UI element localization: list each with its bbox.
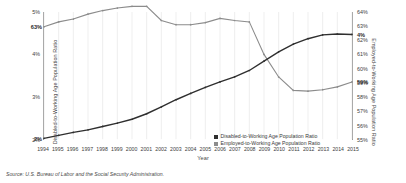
data-point	[219, 81, 221, 83]
series-line-employed-ratio	[44, 6, 352, 91]
data-point	[234, 76, 236, 78]
legend-swatch-icon	[214, 142, 218, 146]
y-tick-right: 64%	[357, 9, 368, 15]
data-point	[102, 126, 104, 128]
data-point	[58, 21, 60, 23]
x-tick: 2005	[200, 146, 212, 152]
data-point	[131, 118, 133, 120]
x-tick: 2001	[141, 146, 153, 152]
data-point	[248, 70, 250, 72]
x-tick: 2003	[170, 146, 182, 152]
legend-label: Disabled-to-Working Age Population Ratio	[221, 133, 318, 140]
data-point	[116, 122, 118, 124]
point-label-start-disabled: 2%	[34, 136, 42, 142]
data-point	[160, 20, 162, 22]
x-tick: 2000	[126, 146, 138, 152]
legend-swatch-icon	[214, 135, 218, 139]
series-line-disabled-ratio	[44, 34, 352, 138]
data-point	[307, 90, 309, 92]
x-axis-title: Year	[0, 155, 406, 161]
point-label-start-employed: 63%	[31, 24, 42, 30]
x-tick: 1997	[82, 146, 94, 152]
plot-area: 63% 2% 4% 59%	[43, 12, 353, 140]
data-point	[160, 106, 162, 108]
chart-legend: Disabled-to-Working Age Population Ratio…	[214, 133, 320, 148]
data-point	[219, 18, 221, 20]
data-point	[87, 13, 89, 15]
data-point	[175, 99, 177, 101]
data-point	[87, 129, 89, 131]
data-point	[278, 51, 280, 53]
data-point	[175, 24, 177, 26]
data-point	[190, 24, 192, 26]
right-axis-title: Employed-to-Working Age Population Ratio	[371, 38, 377, 146]
x-tick: 2004	[185, 146, 197, 152]
x-tick: 1998	[96, 146, 108, 152]
y-tick-left: 5%	[32, 9, 40, 15]
data-point	[58, 135, 60, 137]
data-point	[278, 76, 280, 78]
x-tick: 1995	[52, 146, 64, 152]
data-point	[72, 18, 74, 20]
legend-item[interactable]: Employed-to-Working Age Population Ratio	[214, 140, 320, 147]
x-tick: 2002	[155, 146, 167, 152]
y-tick-right: 55%	[357, 137, 368, 143]
gridlines	[44, 12, 352, 139]
x-tick: 2015	[347, 146, 359, 152]
data-point	[263, 60, 265, 62]
point-label-end-employed: 59%	[357, 79, 368, 85]
data-point	[322, 34, 324, 36]
y-tick-right: 62%	[357, 37, 368, 43]
data-point	[292, 43, 294, 45]
y-tick-left: 3%	[32, 94, 40, 100]
y-tick-left: 4%	[32, 51, 40, 57]
x-tick: 2014	[332, 146, 344, 152]
data-point	[190, 93, 192, 95]
series-markers-employed-ratio	[43, 6, 353, 92]
y-tick-right: 57%	[357, 108, 368, 114]
data-point	[116, 7, 118, 9]
y-tick-right: 56%	[357, 123, 368, 129]
data-point	[204, 87, 206, 89]
data-point	[204, 22, 206, 24]
data-point	[43, 26, 45, 28]
data-point	[351, 34, 353, 36]
data-point	[336, 86, 338, 88]
data-point	[234, 20, 236, 22]
legend-item[interactable]: Disabled-to-Working Age Population Ratio	[214, 133, 320, 140]
x-tick: 1996	[67, 146, 79, 152]
x-tick: 1994	[37, 146, 49, 152]
data-point	[146, 113, 148, 115]
data-point	[351, 81, 353, 83]
series-markers-disabled-ratio	[43, 33, 353, 139]
y-tick-right: 58%	[357, 94, 368, 100]
legend-label: Employed-to-Working Age Population Ratio	[221, 140, 321, 147]
data-point	[72, 132, 74, 134]
data-point	[322, 89, 324, 91]
data-point	[131, 6, 133, 8]
y-tick-right: 60%	[357, 66, 368, 72]
data-point	[102, 10, 104, 12]
data-point	[336, 33, 338, 35]
data-point	[263, 54, 265, 56]
point-label-end-disabled: 4%	[357, 32, 365, 38]
source-note: Source: U.S. Bureau of Labor and the Soc…	[6, 171, 164, 177]
y-tick-right: 63%	[357, 23, 368, 29]
series-canvas	[44, 12, 352, 139]
data-point	[43, 137, 45, 139]
data-point	[307, 38, 309, 40]
x-tick: 1999	[111, 146, 123, 152]
chart-figure: Disabled-to-Working Age Population Ratio…	[0, 0, 406, 183]
data-point	[292, 90, 294, 92]
data-point	[146, 6, 148, 8]
data-point	[248, 21, 250, 23]
y-tick-right: 61%	[357, 51, 368, 57]
